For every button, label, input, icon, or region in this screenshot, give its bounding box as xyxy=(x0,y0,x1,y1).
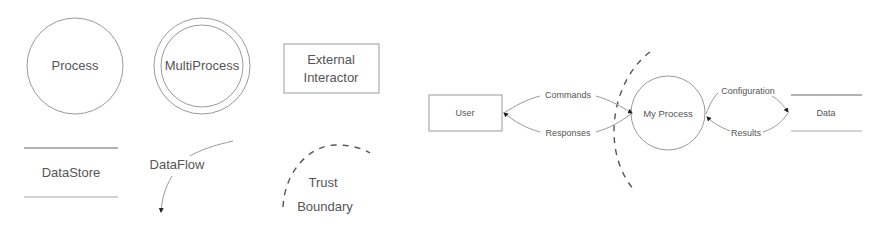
legend-dataflow[interactable]: DataFlow xyxy=(150,141,233,212)
threat-model-diagram: Process MultiProcess External Interactor… xyxy=(0,0,894,231)
node-my-process-label: My Process xyxy=(643,108,693,119)
node-data-store-label: Data xyxy=(816,108,835,118)
node-my-process[interactable]: My Process xyxy=(631,76,705,150)
legend-datastore-label: DataStore xyxy=(42,165,101,180)
dataflow-curve-top xyxy=(190,141,233,156)
flow-configuration-label: Configuration xyxy=(721,86,775,96)
legend-external-interactor[interactable]: External Interactor xyxy=(284,44,379,93)
example-diagram: User My Process Data Commands Responses xyxy=(429,52,862,190)
flow-results-line-left xyxy=(707,117,730,131)
legend-trust-boundary-line1: Trust xyxy=(308,175,338,190)
node-user-label: User xyxy=(455,108,474,118)
flow-commands[interactable]: Commands xyxy=(504,90,632,113)
dataflow-curve-bottom-arrow xyxy=(161,176,172,212)
legend-process[interactable]: Process xyxy=(27,18,123,114)
flow-configuration-line-right xyxy=(772,96,788,112)
flow-configuration-line-left xyxy=(706,93,718,114)
legend-trust-boundary-line2: Boundary xyxy=(297,199,353,214)
flow-commands-line-right xyxy=(596,96,632,113)
flow-results-line-right xyxy=(763,113,788,132)
flow-commands-line-left xyxy=(504,96,540,113)
node-user[interactable]: User xyxy=(429,95,502,131)
legend-datastore[interactable]: DataStore xyxy=(24,148,118,197)
flow-results[interactable]: Results xyxy=(707,113,788,138)
flow-commands-label: Commands xyxy=(545,90,592,100)
flow-responses-line-left xyxy=(504,113,540,132)
flow-configuration[interactable]: Configuration xyxy=(706,86,788,114)
legend-multiprocess[interactable]: MultiProcess xyxy=(154,18,250,114)
flow-results-label: Results xyxy=(731,128,762,138)
legend-external-interactor-line1: External xyxy=(307,52,355,67)
flow-responses[interactable]: Responses xyxy=(504,113,631,138)
legend-external-interactor-line2: Interactor xyxy=(304,70,360,85)
node-data-store[interactable]: Data xyxy=(791,95,862,131)
legend: Process MultiProcess External Interactor… xyxy=(24,18,379,214)
legend-dataflow-label: DataFlow xyxy=(150,157,206,172)
legend-process-label: Process xyxy=(52,58,99,73)
legend-multiprocess-label: MultiProcess xyxy=(165,58,240,73)
legend-trust-boundary[interactable]: Trust Boundary xyxy=(283,145,370,214)
flow-responses-label: Responses xyxy=(545,128,591,138)
